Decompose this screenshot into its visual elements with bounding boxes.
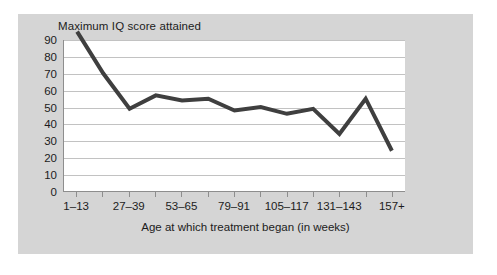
y-tick-label: 70 [44,68,57,80]
x-tick [129,192,130,197]
x-tick-label: 79–91 [218,200,250,212]
y-tick-label: 20 [44,152,57,164]
plot-area [63,40,405,192]
x-tick [102,192,103,197]
x-axis-ticks [63,192,405,198]
x-tick [181,192,182,197]
x-tick [287,192,288,197]
y-tick-label: 60 [44,85,57,97]
x-tick [208,192,209,197]
y-tick-label: 90 [44,34,57,46]
y-axis: 0102030405060708090 [18,14,63,254]
x-tick-label: 53–65 [165,200,197,212]
chart-figure: Maximum IQ score attained 01020304050607… [18,14,473,254]
x-tick-label: 131–143 [317,200,362,212]
y-tick-label: 80 [44,51,57,63]
chart-title: Maximum IQ score attained [58,20,201,32]
x-tick [260,192,261,197]
y-tick-label: 10 [44,169,57,181]
x-tick [392,192,393,197]
x-tick [155,192,156,197]
x-tick [339,192,340,197]
y-tick-label: 0 [51,186,57,198]
x-tick-label: 27–39 [113,200,145,212]
x-tick [366,192,367,197]
x-tick-label: 1–13 [63,200,89,212]
x-tick-label: 105–117 [265,200,309,212]
data-series-line [64,40,405,191]
x-tick [234,192,235,197]
x-tick [313,192,314,197]
y-tick-label: 40 [44,118,57,130]
x-axis-tick-labels: 1–1327–3953–6579–91105–117131–143157+ [63,200,405,216]
x-axis-title: Age at which treatment began (in weeks) [18,221,473,233]
x-tick [76,192,77,197]
y-tick-label: 30 [44,135,57,147]
y-tick-label: 50 [44,102,57,114]
x-tick-label: 157+ [379,200,405,212]
